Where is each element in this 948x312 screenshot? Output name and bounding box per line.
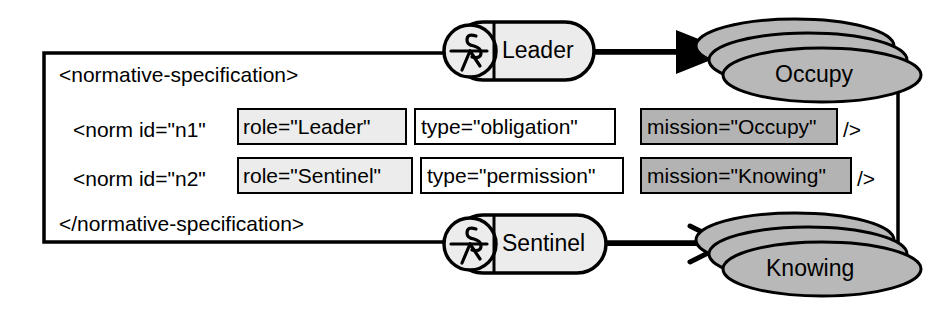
- normative-specification-open-tag: <normative-specification>: [59, 64, 298, 85]
- norm-n2-suffix: />: [857, 168, 875, 189]
- role-label-sentinel: Sentinel: [502, 232, 585, 255]
- norm-n2-prefix: <norm id="n2": [73, 168, 206, 189]
- mission-label-knowing: Knowing: [766, 257, 854, 280]
- norm-n1-role-attribute-label: role="Leader": [243, 115, 371, 139]
- norm-n1-suffix: />: [843, 119, 861, 140]
- norm-n1-prefix: <norm id="n1": [73, 119, 206, 140]
- norm-n1-mission-attribute-box[interactable]: mission="Occupy": [640, 108, 838, 145]
- mission-label-occupy: Occupy: [775, 63, 853, 86]
- norm-n1-role-attribute-box[interactable]: role="Leader": [237, 108, 407, 145]
- norm-n2-mission-attribute-label: mission="Knowing": [647, 164, 826, 188]
- role-label-leader: Leader: [502, 39, 574, 62]
- diagram-canvas: <normative-specification> <norm id="n1" …: [0, 0, 948, 312]
- norm-n2-role-attribute-label: role="Sentinel": [243, 164, 381, 188]
- norm-n2-type-attribute-box[interactable]: type="permission": [420, 157, 624, 194]
- norm-n2-type-attribute-label: type="permission": [427, 164, 595, 188]
- norm-n2-role-attribute-box[interactable]: role="Sentinel": [237, 157, 413, 194]
- norm-n1-type-attribute-label: type="obligation": [421, 115, 578, 139]
- norm-n2-mission-attribute-box[interactable]: mission="Knowing": [640, 157, 852, 194]
- norm-n1-type-attribute-box[interactable]: type="obligation": [414, 108, 616, 145]
- normative-specification-close-tag: </normative-specification>: [59, 213, 304, 234]
- norm-n1-mission-attribute-label: mission="Occupy": [647, 115, 817, 139]
